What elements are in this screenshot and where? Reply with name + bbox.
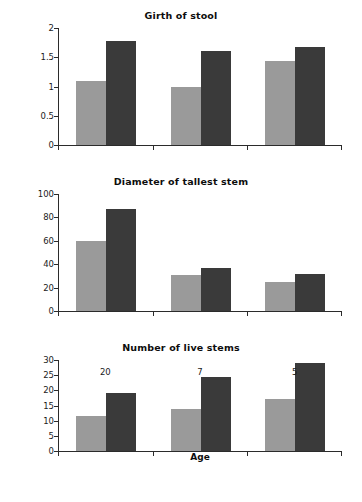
y-tick-1-1 (54, 288, 58, 289)
y-tick-label-1-2: 40 (43, 260, 54, 269)
bar-0-0-dark (106, 41, 136, 145)
plot-area-stems: 0510152025302075 (58, 360, 342, 452)
x-axis-label-age: Age (58, 452, 342, 462)
x-axis-line-girth (58, 145, 342, 146)
bar-2-0-light (76, 416, 106, 451)
bar-0-2-dark (295, 47, 325, 145)
y-tick-0-1 (54, 116, 58, 117)
x-tick-1-0 (58, 312, 59, 316)
y-tick-label-0-0: 0 (49, 141, 54, 150)
y-tick-label-0-3: 1.5 (40, 53, 54, 62)
x-tick-0-0 (58, 146, 59, 150)
y-tick-label-0-4: 2 (49, 24, 54, 33)
y-tick-2-4 (54, 390, 58, 391)
panel-girth-of-stool: Girth of stool Girth (m) 00.511.52 (0, 0, 362, 168)
bar-2-1-dark (201, 377, 231, 451)
bar-2-2-dark (295, 363, 325, 451)
bar-1-1-light (171, 275, 201, 311)
x-tick-label-1: 7 (197, 368, 202, 377)
y-tick-0-2 (54, 87, 58, 88)
y-tick-1-3 (54, 241, 58, 242)
y-tick-1-5 (54, 194, 58, 195)
x-tick-1-1 (153, 312, 154, 316)
y-tick-2-2 (54, 421, 58, 422)
x-axis-line-diameter (58, 311, 342, 312)
panel-title-girth: Girth of stool (0, 10, 362, 21)
y-tick-0-4 (54, 28, 58, 29)
bar-2-0-dark (106, 393, 136, 451)
x-tick-1-end (341, 312, 342, 316)
y-tick-label-0-2: 1 (49, 82, 54, 91)
y-tick-label-1-3: 60 (43, 237, 54, 246)
y-tick-label-0-1: 0.5 (40, 112, 54, 121)
y-tick-label-2-4: 20 (43, 386, 54, 395)
plot-area-girth: 00.511.52 (58, 28, 342, 146)
x-tick-0-2 (247, 146, 248, 150)
bar-1-2-light (265, 282, 295, 311)
bar-0-1-light (171, 87, 201, 146)
y-axis-line-diameter (58, 194, 59, 312)
y-tick-label-2-1: 5 (49, 432, 54, 441)
panel-number-of-live-stems: Number of live stems Number of stems 051… (0, 332, 362, 472)
y-tick-0-3 (54, 57, 58, 58)
panel-diameter-of-tallest-stem: Diameter of tallest stem Diameter (mm) 0… (0, 166, 362, 334)
y-axis-line-stems (58, 360, 59, 452)
y-tick-label-2-2: 10 (43, 416, 54, 425)
x-tick-label-0: 20 (100, 368, 111, 377)
y-axis-line-girth (58, 28, 59, 146)
bar-0-1-dark (201, 51, 231, 145)
y-tick-2-6 (54, 360, 58, 361)
plot-area-diameter: 020406080100 (58, 194, 342, 312)
y-tick-2-1 (54, 436, 58, 437)
x-tick-label-2: 5 (292, 368, 297, 377)
bar-1-0-light (76, 241, 106, 311)
y-tick-2-5 (54, 375, 58, 376)
bar-0-2-light (265, 61, 295, 145)
y-tick-label-1-5: 100 (38, 190, 54, 199)
bar-2-1-light (171, 409, 201, 451)
bar-1-2-dark (295, 274, 325, 311)
bar-1-0-dark (106, 209, 136, 311)
y-tick-label-2-5: 25 (43, 371, 54, 380)
y-tick-label-2-3: 15 (43, 401, 54, 410)
y-tick-label-2-0: 0 (49, 447, 54, 456)
y-tick-label-1-1: 20 (43, 283, 54, 292)
y-tick-label-2-6: 30 (43, 356, 54, 365)
y-tick-2-3 (54, 406, 58, 407)
panel-title-diameter: Diameter of tallest stem (0, 176, 362, 187)
x-tick-0-1 (153, 146, 154, 150)
x-tick-0-end (341, 146, 342, 150)
y-tick-1-2 (54, 264, 58, 265)
bar-0-0-light (76, 81, 106, 145)
y-tick-1-4 (54, 217, 58, 218)
panel-title-stems: Number of live stems (0, 342, 362, 353)
figure-three-panel-bar-charts: Girth of stool Girth (m) 00.511.52 Diame… (0, 0, 362, 502)
y-tick-label-1-4: 80 (43, 213, 54, 222)
bar-1-1-dark (201, 268, 231, 311)
y-tick-label-1-0: 0 (49, 307, 54, 316)
bar-2-2-light (265, 399, 295, 451)
x-tick-1-2 (247, 312, 248, 316)
